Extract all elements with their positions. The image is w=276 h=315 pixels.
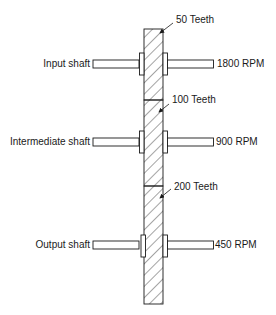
gear-label-200-teeth: 200 Teeth (174, 181, 218, 192)
output-hub-right (163, 235, 168, 257)
output-shaft-right (168, 241, 214, 249)
input-hub-left (140, 53, 145, 75)
shaft-speed-output: 450 RPM (215, 239, 257, 250)
shaft-label-intermediate: Intermediate shaft (10, 136, 90, 147)
gear-train-drawing (0, 0, 276, 315)
intermediate-hub-right (163, 131, 168, 153)
leader-50-teeth (160, 23, 173, 33)
input-shaft-left (93, 60, 139, 68)
shaft-speed-intermediate: 900 RPM (216, 136, 258, 147)
intermediate-shaft-right (168, 138, 214, 146)
intermediate-shaft-left (93, 138, 139, 146)
gear-50-teeth (144, 29, 163, 100)
output-hub-left (141, 235, 146, 257)
gear-column (144, 29, 163, 304)
shaft-speed-input: 1800 RPM (217, 58, 264, 69)
gear-label-100-teeth: 100 Teeth (172, 94, 216, 105)
shaft-label-input: Input shaft (43, 58, 90, 69)
input-hub-right (163, 53, 168, 75)
shaft-label-output: Output shaft (36, 239, 90, 250)
output-shaft-left (93, 241, 139, 249)
gear-label-50-teeth: 50 Teeth (176, 14, 214, 25)
input-shaft-right (168, 60, 214, 68)
gear-100-teeth (144, 100, 163, 186)
gear-200-teeth (144, 186, 163, 304)
intermediate-hub-left (140, 131, 145, 153)
